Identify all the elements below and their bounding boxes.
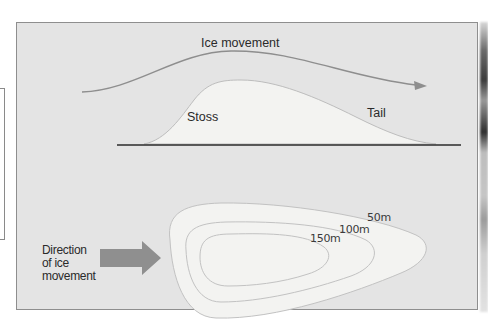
right-edge-photo-strip: [480, 22, 488, 312]
direction-label-line-3: movement: [42, 269, 97, 283]
diagram-stage: Ice movement Stoss Tail 50m 100m 150m Di…: [0, 0, 488, 325]
contour-label-150m: 150m: [310, 232, 341, 245]
left-edge-box: [0, 88, 5, 240]
plan-section: 50m 100m 150m Direction of ice movement: [42, 203, 426, 318]
flow-arrowhead-icon: [414, 81, 427, 90]
drumlin-diagram: Ice movement Stoss Tail 50m 100m 150m Di…: [16, 22, 478, 310]
tail-label: Tail: [367, 106, 386, 120]
contour-label-100m: 100m: [339, 223, 370, 236]
contour-label-50m: 50m: [367, 211, 391, 224]
direction-arrow-icon: [100, 241, 161, 275]
direction-label-line-1: Direction: [42, 243, 87, 257]
ice-movement-label: Ice movement: [201, 36, 280, 50]
direction-label-line-2: of ice: [42, 256, 70, 270]
stoss-label: Stoss: [187, 110, 218, 124]
profile-section: Ice movement Stoss Tail: [82, 36, 461, 145]
